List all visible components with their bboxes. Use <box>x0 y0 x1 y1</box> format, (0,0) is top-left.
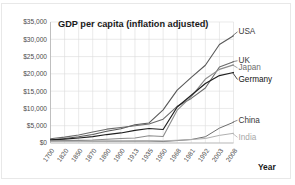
x-tick-label: 1850 <box>70 147 84 163</box>
x-axis-title: Year <box>258 162 276 172</box>
x-tick-label: 1890 <box>98 147 112 163</box>
series-label-germany: Germany <box>239 75 274 84</box>
series-line-germany <box>51 72 234 139</box>
x-tick-label: 1981 <box>182 147 196 163</box>
y-axis-tick-labels: $0$5,000$10,000$15,000$20,000$25,000$30,… <box>23 18 47 146</box>
series-line-uk <box>51 62 234 139</box>
x-tick-label: 1820 <box>55 147 69 163</box>
x-tick-label: 1968 <box>168 147 182 163</box>
x-tick-label: 1913 <box>126 147 140 163</box>
y-tick-label: $25,000 <box>23 53 47 60</box>
y-tick-label: $0 <box>40 139 48 146</box>
x-tick-label: 2008 <box>224 147 238 163</box>
y-tick-label: $35,000 <box>23 18 47 25</box>
series-label-japan: Japan <box>239 63 262 72</box>
gdp-per-capita-line-chart: $0$5,000$10,000$15,000$20,000$25,000$30,… <box>0 0 295 185</box>
x-tick-label: 1900 <box>112 147 126 163</box>
x-tick-label: 1870 <box>84 147 98 163</box>
y-tick-label: $30,000 <box>23 36 47 43</box>
y-tick-label: $5,000 <box>27 122 48 129</box>
x-axis-tick-labels: 1700182018501870189019001913193519501968… <box>41 147 238 163</box>
series-label-china: China <box>239 116 261 125</box>
chart-figure: $0$5,000$10,000$15,000$20,000$25,000$30,… <box>0 0 295 185</box>
series-label-india: India <box>239 133 257 142</box>
series-label-usa: USA <box>239 27 256 36</box>
y-tick-label: $20,000 <box>23 70 47 77</box>
series-inline-labels: USAUKJapanGermanyChinaIndia <box>233 27 274 141</box>
chart-title: GDP per capita (inflation adjusted) <box>58 19 208 29</box>
y-tick-label: $15,000 <box>23 88 47 95</box>
x-tick-label: 1950 <box>154 147 168 163</box>
y-tick-label: $10,000 <box>23 105 47 112</box>
x-tick-label: 1700 <box>41 147 55 163</box>
x-tick-label: 2003 <box>210 147 224 163</box>
x-tick-label: 1935 <box>140 147 154 163</box>
x-tick-label: 1992 <box>196 147 210 163</box>
